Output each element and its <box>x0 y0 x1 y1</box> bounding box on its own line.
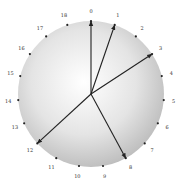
point-0 <box>90 20 92 22</box>
point-17 <box>45 35 47 37</box>
point-14 <box>17 99 19 101</box>
point-label-2: 2 <box>140 25 143 31</box>
diagram-canvas: 0123456789101112131415161718 <box>0 0 180 185</box>
point-label-11: 11 <box>48 164 54 170</box>
point-label-4: 4 <box>170 70 173 76</box>
point-1 <box>114 24 116 26</box>
point-4 <box>161 75 163 77</box>
point-6 <box>157 122 159 124</box>
point-label-12: 12 <box>27 147 33 153</box>
point-15 <box>19 75 21 77</box>
point-label-9: 9 <box>103 173 106 179</box>
point-label-10: 10 <box>74 173 80 179</box>
point-label-5: 5 <box>172 98 175 104</box>
point-label-14: 14 <box>5 98 11 104</box>
point-8 <box>125 157 127 159</box>
point-label-0: 0 <box>89 8 92 14</box>
point-9 <box>102 165 104 167</box>
point-label-8: 8 <box>129 164 132 170</box>
point-label-1: 1 <box>116 12 119 18</box>
point-7 <box>144 142 146 144</box>
point-5 <box>163 99 165 101</box>
point-11 <box>55 157 57 159</box>
point-label-16: 16 <box>18 45 24 51</box>
point-2 <box>135 35 137 37</box>
circular-diagram: 0123456789101112131415161718 <box>0 0 180 185</box>
point-label-13: 13 <box>12 124 18 130</box>
point-13 <box>23 122 25 124</box>
point-label-6: 6 <box>165 124 168 130</box>
point-label-7: 7 <box>150 147 153 153</box>
point-16 <box>29 53 31 55</box>
point-label-3: 3 <box>159 45 162 51</box>
point-label-18: 18 <box>61 12 67 18</box>
point-label-17: 17 <box>37 25 43 31</box>
point-12 <box>36 142 38 144</box>
point-18 <box>66 24 68 26</box>
point-3 <box>151 53 153 55</box>
point-label-15: 15 <box>7 70 13 76</box>
point-10 <box>78 165 80 167</box>
